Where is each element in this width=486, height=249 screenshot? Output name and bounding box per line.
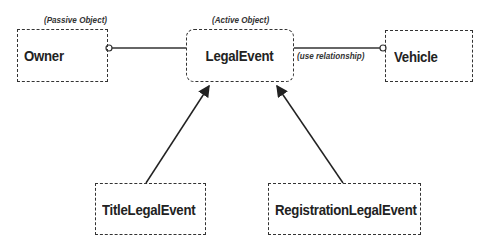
title-inheritance-arrow-icon — [146, 86, 209, 183]
legalevent-class-box[interactable]: LegalEvent — [186, 29, 294, 82]
owner-class-name: Owner — [24, 47, 64, 64]
registrationlegalevent-class-box[interactable]: RegistrationLegalEvent — [268, 183, 421, 235]
owner-legalevent-association — [106, 45, 186, 51]
registration-inheritance-arrow-icon — [277, 86, 343, 183]
vehicle-class-name: Vehicle — [394, 48, 438, 65]
vehicle-class-box[interactable]: Vehicle — [385, 30, 473, 82]
legalevent-stereotype-label: (Active Object) — [212, 15, 269, 25]
use-relationship-label: (use relationship) — [297, 51, 365, 61]
legalevent-class-name: LegalEvent — [206, 47, 274, 64]
titlelegalevent-class-box[interactable]: TitleLegalEvent — [95, 183, 206, 235]
registrationlegalevent-class-name: RegistrationLegalEvent — [275, 201, 417, 218]
titlelegalevent-class-name: TitleLegalEvent — [102, 201, 195, 218]
owner-class-box[interactable]: Owner — [17, 29, 108, 82]
owner-stereotype-label: (Passive Object) — [44, 15, 107, 25]
